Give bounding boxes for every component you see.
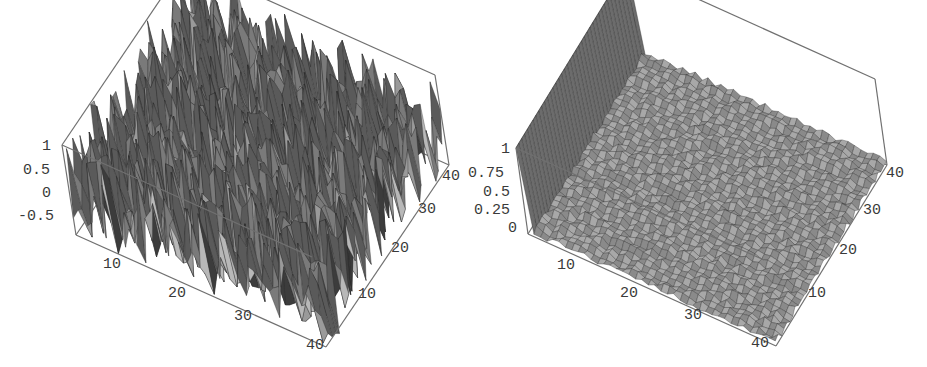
x-tick-label: 40 <box>306 337 324 354</box>
z-tick-label: 1 <box>42 138 51 155</box>
z-tick-label: -0.5 <box>18 208 54 225</box>
z-tick-label: 1 <box>501 141 510 158</box>
y-tick-label: 20 <box>391 240 409 257</box>
x-tick-label: 30 <box>234 308 252 325</box>
y-tick-label: 40 <box>442 168 460 185</box>
y-tick-label: 10 <box>808 285 826 302</box>
x-tick-label: 20 <box>620 285 638 302</box>
x-tick-label: 30 <box>684 307 702 324</box>
z-tick-label: 0 <box>508 220 517 237</box>
y-tick-label: 20 <box>839 242 857 259</box>
x-tick-label: 10 <box>103 256 121 273</box>
surface-plot-right: 1 0.75 0.5 0.25 0 10 20 30 40 10 20 30 4… <box>463 0 927 367</box>
y-tick-label: 30 <box>863 202 881 219</box>
z-tick-label: 0.25 <box>474 202 510 219</box>
x-tick-label: 20 <box>168 285 186 302</box>
x-tick-label: 40 <box>751 335 769 352</box>
surface-plot-left-labels: 1 0.5 0 -0.5 10 20 30 40 10 20 30 40 <box>0 0 463 367</box>
surface-plot-right-labels: 1 0.75 0.5 0.25 0 10 20 30 40 10 20 30 4… <box>463 0 927 367</box>
surface-plot-left: 1 0.5 0 -0.5 10 20 30 40 10 20 30 40 <box>0 0 463 367</box>
y-tick-label: 40 <box>886 165 904 182</box>
z-tick-label: 0 <box>42 185 51 202</box>
x-tick-label: 10 <box>557 257 575 274</box>
z-tick-label: 0.5 <box>483 184 510 201</box>
z-tick-label: 0.5 <box>23 162 50 179</box>
y-tick-label: 30 <box>418 201 436 218</box>
z-tick-label: 0.75 <box>468 165 504 182</box>
y-tick-label: 10 <box>358 286 376 303</box>
